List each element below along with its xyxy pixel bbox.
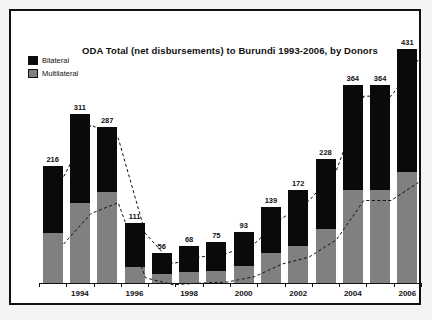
bar-segment-multilateral (152, 274, 172, 283)
x-tick-1998 (175, 283, 176, 287)
bar-segment-multilateral (343, 190, 363, 283)
x-tick-2004 (339, 283, 340, 287)
bar-segment-bilateral (234, 232, 254, 265)
bar-value-label-1995: 287 (101, 116, 114, 125)
bar-segment-multilateral (70, 203, 90, 283)
bar-segment-multilateral (206, 271, 226, 283)
bar-value-label-1993: 216 (46, 155, 59, 164)
chart-figure: ODA Total (net disbursements) to Burundi… (0, 0, 432, 320)
bar-segment-multilateral (97, 192, 117, 283)
x-tick-1996 (121, 283, 122, 287)
bar-1996 (125, 223, 145, 283)
bar-1999 (206, 242, 226, 283)
x-axis-label-2006: 2006 (398, 289, 416, 298)
bar-segment-bilateral (288, 190, 308, 247)
bar-segment-multilateral (179, 272, 199, 283)
x-tick-1993 (39, 283, 40, 287)
x-tick-2002 (285, 283, 286, 287)
x-axis-label-2000: 2000 (235, 289, 253, 298)
x-axis-label-2002: 2002 (289, 289, 307, 298)
bar-segment-bilateral (397, 49, 417, 172)
x-tick-1999 (203, 283, 204, 287)
bar-segment-bilateral (70, 114, 90, 203)
bar-2001 (261, 207, 281, 283)
bar-1993 (43, 166, 63, 283)
bar-value-label-2004: 364 (347, 74, 360, 83)
bar-2003 (316, 159, 336, 283)
x-tick-1995 (94, 283, 95, 287)
bar-segment-multilateral (397, 172, 417, 283)
bar-segment-bilateral (206, 242, 226, 271)
bar-segment-multilateral (288, 246, 308, 283)
bar-2000 (234, 232, 254, 283)
bar-2006 (397, 49, 417, 283)
bar-segment-multilateral (261, 253, 281, 283)
bar-segment-bilateral (97, 127, 117, 192)
bar-segment-bilateral (179, 246, 199, 272)
bar-1994 (70, 114, 90, 283)
bar-value-label-1994: 311 (74, 103, 86, 112)
x-tick-2005 (366, 283, 367, 287)
bar-segment-bilateral (152, 253, 172, 274)
x-tick-1997 (148, 283, 149, 287)
x-tick-2000 (230, 283, 231, 287)
x-tick-2006 (394, 283, 395, 287)
bar-value-label-1997: 56 (158, 242, 166, 251)
x-axis-label-2004: 2004 (344, 289, 362, 298)
bar-value-label-2000: 93 (239, 221, 247, 230)
x-tick-1994 (66, 283, 67, 287)
x-axis-label-1998: 1998 (180, 289, 198, 298)
bar-segment-bilateral (370, 85, 390, 189)
bar-value-label-1998: 68 (185, 235, 193, 244)
bar-value-label-2002: 172 (292, 179, 305, 188)
chart-frame: ODA Total (net disbursements) to Burundi… (9, 9, 421, 305)
bar-value-label-1999: 75 (212, 231, 220, 240)
bar-value-label-2003: 228 (319, 148, 332, 157)
bar-segment-bilateral (316, 159, 336, 229)
bar-segment-multilateral (43, 233, 63, 283)
bar-segment-multilateral (234, 266, 254, 283)
bar-2004 (343, 85, 363, 283)
bar-segment-bilateral (261, 207, 281, 253)
bar-segment-multilateral (125, 267, 145, 283)
x-tick-2003 (312, 283, 313, 287)
bar-segment-bilateral (343, 85, 363, 189)
bar-value-label-2006: 431 (401, 38, 414, 47)
bar-1997 (152, 253, 172, 283)
bar-value-label-2005: 364 (374, 74, 387, 83)
x-tick-2001 (257, 283, 258, 287)
bar-segment-bilateral (125, 223, 145, 267)
legend-swatch-multilateral (28, 69, 38, 78)
plot-area (39, 33, 421, 283)
bar-2005 (370, 85, 390, 283)
bar-1998 (179, 246, 199, 283)
bar-1995 (97, 127, 117, 283)
bar-segment-multilateral (316, 229, 336, 283)
bar-2002 (288, 190, 308, 283)
bar-value-label-2001: 139 (265, 196, 278, 205)
bar-segment-multilateral (370, 190, 390, 283)
x-tick-end (421, 283, 422, 287)
x-axis-label-1994: 1994 (71, 289, 89, 298)
bar-value-label-1996: 111 (129, 212, 141, 221)
bar-segment-bilateral (43, 166, 63, 233)
legend-swatch-bilateral (28, 56, 38, 65)
x-axis-label-1996: 1996 (126, 289, 144, 298)
